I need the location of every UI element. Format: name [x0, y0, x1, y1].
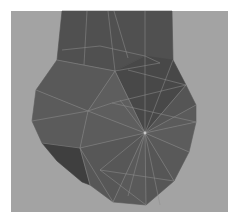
- mesh-faces: [32, 11, 196, 205]
- mesh-render: [0, 0, 239, 222]
- hub-vertex: [144, 132, 147, 135]
